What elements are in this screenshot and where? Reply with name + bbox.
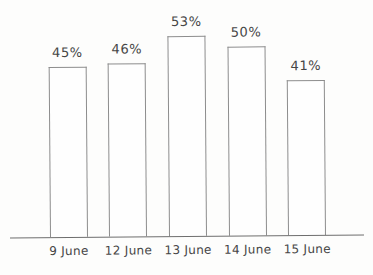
bar <box>48 67 87 237</box>
bar-value-label: 45% <box>52 45 83 60</box>
bar <box>287 80 326 235</box>
bar-group: 41% <box>276 58 337 235</box>
bar-group: 45% <box>37 45 98 237</box>
bar <box>108 63 147 236</box>
bar <box>167 36 207 236</box>
bar-chart: 45%46%53%50%41% 9 June12 June13 June14 J… <box>0 0 373 275</box>
bar-group: 50% <box>216 24 277 235</box>
scanned-bar-chart-page: 45%46%53%50%41% 9 June12 June13 June14 J… <box>0 0 373 275</box>
bar-group: 53% <box>156 14 217 236</box>
bar-value-label: 50% <box>231 24 262 39</box>
bar-value-label: 46% <box>111 41 142 56</box>
x-axis-tick-label: 9 June <box>39 244 99 258</box>
bar-group: 46% <box>97 41 158 236</box>
bar-value-label: 53% <box>171 14 202 29</box>
x-axis-tick-label: 13 June <box>158 243 218 257</box>
x-axis-tick-label: 12 June <box>99 243 159 257</box>
bar <box>227 46 266 235</box>
x-axis-labels: 9 June12 June13 June14 June15 June <box>39 242 337 258</box>
x-axis-tick-label: 14 June <box>218 242 278 256</box>
plot-area: 45%46%53%50%41% <box>37 13 337 237</box>
bar-value-label: 41% <box>290 58 321 73</box>
x-axis-tick-label: 15 June <box>277 242 337 256</box>
